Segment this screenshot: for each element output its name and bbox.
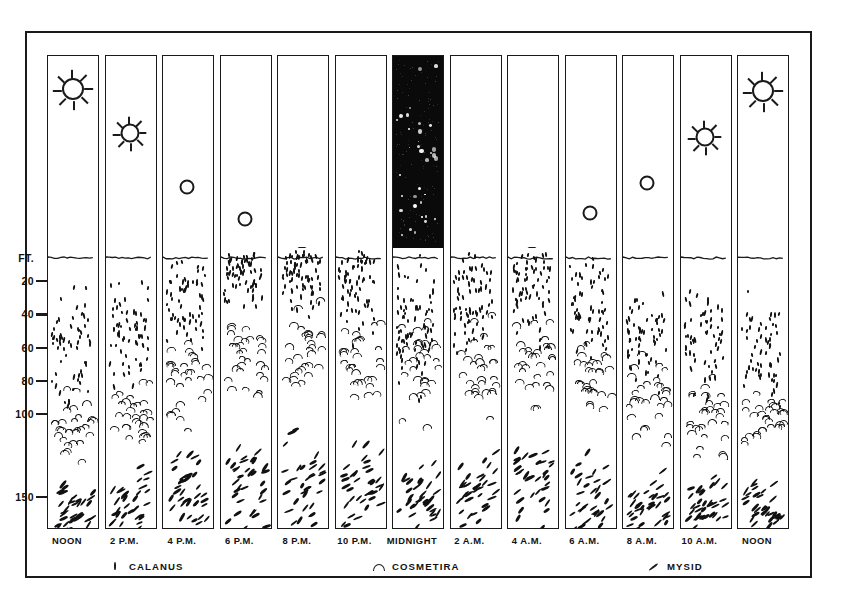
calanus-mark <box>418 305 420 310</box>
calanus-mark <box>110 282 112 287</box>
time-column[interactable] <box>507 55 559 529</box>
calanus-mark <box>184 318 186 322</box>
calanus-mark <box>591 285 594 290</box>
time-column[interactable] <box>47 55 99 529</box>
calanus-mark <box>468 251 471 255</box>
cosmetira-mark <box>76 440 84 445</box>
time-column[interactable] <box>622 55 674 529</box>
calanus-mark <box>585 329 588 335</box>
mysid-mark <box>632 526 641 528</box>
calanus-mark <box>176 330 178 335</box>
star <box>429 124 432 127</box>
calanus-mark <box>684 345 687 349</box>
time-column[interactable] <box>450 55 502 529</box>
calanus-mark <box>581 292 583 297</box>
calanus-mark <box>716 326 719 330</box>
calanus-mark <box>120 311 122 315</box>
calanus-mark <box>543 260 545 264</box>
calanus-mark <box>128 339 131 343</box>
time-column[interactable] <box>220 55 272 529</box>
day-sky <box>508 56 558 248</box>
mysid-mark <box>376 501 385 507</box>
cosmetira-mark <box>516 341 527 348</box>
mysid-mark <box>487 482 497 488</box>
cosmetira-mark <box>607 393 616 399</box>
star-speck <box>435 137 436 138</box>
calanus-mark <box>714 341 716 346</box>
star-speck <box>413 238 414 239</box>
calanus-mark <box>770 333 773 337</box>
sun-ray <box>714 136 722 138</box>
calanus-mark <box>362 321 365 326</box>
cosmetira-mark <box>463 355 473 361</box>
calanus-mark <box>317 274 319 279</box>
night-sky <box>393 56 443 248</box>
cosmetira-mark <box>70 418 78 422</box>
time-column[interactable] <box>737 55 789 529</box>
mysid-mark <box>721 501 729 508</box>
calanus-mark <box>627 315 630 321</box>
cosmetira-mark <box>76 458 86 465</box>
calanus-mark <box>251 294 253 299</box>
calanus-mark <box>696 293 699 299</box>
mysid-mark <box>168 494 174 502</box>
star-speck <box>416 206 417 207</box>
calanus-mark <box>527 253 530 257</box>
axis-tick-label: 80 <box>22 375 34 387</box>
time-column[interactable] <box>392 55 444 529</box>
cosmetira-mark <box>741 437 748 441</box>
star-speck <box>428 236 429 237</box>
star-speck <box>404 225 405 226</box>
sun-disc <box>237 212 252 227</box>
mysid-mark <box>658 467 667 475</box>
calanus-mark <box>300 294 302 300</box>
cosmetira-mark <box>398 324 406 329</box>
cosmetira-mark <box>545 318 555 325</box>
cosmetira-mark <box>741 440 750 446</box>
calanus-mark <box>87 318 89 322</box>
calanus-mark <box>685 352 688 356</box>
time-column[interactable] <box>680 55 732 529</box>
calanus-mark <box>314 253 317 258</box>
time-column[interactable] <box>335 55 387 529</box>
sun-ray <box>711 143 718 150</box>
calanus-mark <box>235 256 238 261</box>
star-speck <box>427 235 428 236</box>
mysid-mark <box>282 440 289 447</box>
calanus-mark <box>259 276 262 281</box>
calanus-mark <box>425 267 427 271</box>
calanus-mark <box>571 277 573 281</box>
calanus-mark <box>716 346 719 351</box>
mysid-mark <box>592 468 598 475</box>
calanus-mark <box>113 328 115 332</box>
calanus-mark <box>487 303 490 308</box>
calanus-mark <box>637 360 640 364</box>
calanus-mark <box>769 337 771 342</box>
cosmetira-mark <box>489 358 498 364</box>
mysid-mark <box>435 471 442 480</box>
time-column[interactable] <box>162 55 214 529</box>
calanus-mark <box>606 335 608 340</box>
calanus-mark <box>368 299 371 303</box>
cosmetira-mark <box>314 296 325 304</box>
time-column[interactable] <box>565 55 617 529</box>
calanus-mark <box>537 278 540 283</box>
cosmetira-mark <box>653 376 662 382</box>
day-sky <box>681 56 731 248</box>
star-speck <box>396 69 397 70</box>
time-column[interactable] <box>105 55 157 529</box>
mysid-mark <box>284 508 294 514</box>
star-speck <box>399 60 400 61</box>
mysid-mark <box>281 468 289 473</box>
time-column[interactable] <box>277 55 329 529</box>
calanus-mark <box>710 324 713 329</box>
sun-ray <box>79 74 87 82</box>
calanus-mark <box>254 304 257 309</box>
cosmetira-mark <box>123 412 133 419</box>
day-sky <box>738 56 788 248</box>
calanus-mark <box>722 356 725 360</box>
calanus-mark <box>355 309 357 314</box>
calanus-mark <box>747 290 749 294</box>
calanus-mark <box>196 269 199 273</box>
time-label: 8 P.M. <box>265 535 329 546</box>
